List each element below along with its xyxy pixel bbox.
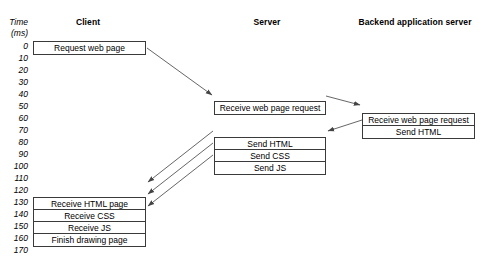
- time-axis-caption-unit: (ms): [0, 28, 28, 38]
- time-tick-150: 150: [0, 220, 28, 232]
- message-row-server-send-1: Send CSS: [215, 150, 325, 162]
- message-row-server-send-0: Send HTML: [215, 138, 325, 150]
- time-tick-120: 120: [0, 184, 28, 196]
- lane-title-backend-application-server: Backend application server: [350, 17, 480, 27]
- lane-title-client: Client: [48, 17, 128, 27]
- time-tick-50: 50: [0, 100, 28, 112]
- time-tick-170: 170: [0, 244, 28, 256]
- time-tick-70: 70: [0, 124, 28, 136]
- time-tick-10: 10: [0, 52, 28, 64]
- time-tick-140: 140: [0, 208, 28, 220]
- arrow-server-to-backend: [326, 96, 360, 105]
- message-row-server-send-2: Send JS: [215, 162, 325, 174]
- arrow-client-to-server: [147, 48, 212, 95]
- message-row-client-request-0: Request web page: [34, 42, 145, 54]
- time-tick-160: 160: [0, 232, 28, 244]
- message-row-client-receive-1: Receive CSS: [34, 210, 145, 222]
- time-tick-100: 100: [0, 160, 28, 172]
- message-row-client-receive-2: Receive JS: [34, 222, 145, 234]
- message-row-backend-receive-send-1: Send HTML: [363, 126, 474, 138]
- lane-title-server: Server: [227, 17, 307, 27]
- time-tick-60: 60: [0, 112, 28, 124]
- time-tick-40: 40: [0, 88, 28, 100]
- message-row-client-receive-0: Receive HTML page: [34, 198, 145, 210]
- time-tick-0: 0: [0, 40, 28, 52]
- time-tick-20: 20: [0, 64, 28, 76]
- message-box-server-send[interactable]: Send HTMLSend CSSSend JS: [214, 137, 326, 175]
- time-tick-30: 30: [0, 76, 28, 88]
- arrow-server-css-to-client: [148, 143, 213, 194]
- message-box-server-receive[interactable]: Receive web page request: [214, 101, 326, 115]
- arrow-server-html-to-client: [148, 131, 213, 182]
- arrow-server-js-to-client: [148, 155, 213, 206]
- message-row-client-receive-3: Finish drawing page: [34, 234, 145, 246]
- time-tick-90: 90: [0, 148, 28, 160]
- message-box-backend-receive-send[interactable]: Receive web page requestSend HTML: [362, 113, 475, 139]
- message-row-backend-receive-send-0: Receive web page request: [363, 114, 474, 126]
- time-tick-130: 130: [0, 196, 28, 208]
- arrow-backend-to-server: [328, 120, 362, 131]
- time-tick-80: 80: [0, 136, 28, 148]
- message-row-server-receive-0: Receive web page request: [215, 102, 325, 114]
- time-tick-110: 110: [0, 172, 28, 184]
- time-axis-caption-label: Time: [0, 17, 28, 27]
- message-box-client-request[interactable]: Request web page: [33, 41, 146, 55]
- message-box-client-receive[interactable]: Receive HTML pageReceive CSSReceive JSFi…: [33, 197, 146, 247]
